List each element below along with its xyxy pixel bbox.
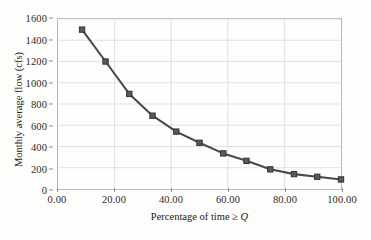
y-axis-tick-mark [49, 39, 53, 40]
y-axis-title: Monthly average flow (cfs) [13, 30, 24, 190]
x-axis-title-variable: Q [241, 211, 249, 222]
y-axis-tick-label: 800 [31, 99, 47, 110]
data-point-marker [127, 91, 132, 96]
data-series-layer [58, 19, 341, 189]
x-axis-tick-label: 20.00 [102, 194, 126, 205]
y-axis-tick-label: 0 [42, 185, 47, 196]
y-axis-tick-mark [49, 125, 53, 126]
x-axis-tick-label: 100.00 [327, 194, 356, 205]
data-point-marker [268, 167, 273, 172]
y-axis-tick-label: 1000 [26, 77, 47, 88]
x-axis-tick-mark [57, 188, 58, 192]
y-axis-tick-label: 1600 [26, 13, 47, 24]
y-axis-tick-mark [49, 147, 53, 148]
data-point-marker [79, 27, 84, 32]
y-axis-tick-mark [49, 82, 53, 83]
data-point-marker [315, 174, 320, 179]
data-point-marker [221, 151, 226, 156]
x-axis-tick-label: 80.00 [273, 194, 297, 205]
data-point-marker [291, 171, 296, 176]
data-point-marker [197, 140, 202, 145]
x-axis-title: Percentage of time ≥ Q [57, 211, 342, 222]
y-axis-tick-label: 1400 [26, 34, 47, 45]
y-axis-tick-mark [49, 168, 53, 169]
x-axis-tick-mark [285, 188, 286, 192]
y-axis-tick-labels: 02004006008001000120014001600 [0, 18, 53, 190]
y-axis-tick-label: 400 [31, 142, 47, 153]
data-point-marker [150, 113, 155, 118]
x-axis-tick-mark [342, 188, 343, 192]
x-axis-tick-label: 0.00 [48, 194, 67, 205]
y-axis-tick-label: 600 [31, 120, 47, 131]
x-axis-tick-mark [114, 188, 115, 192]
y-axis-tick-mark [49, 104, 53, 105]
data-point-marker [338, 177, 343, 182]
x-axis-tick-labels: 0.0020.0040.0060.0080.00100.00 [57, 192, 342, 208]
x-axis-tick-mark [228, 188, 229, 192]
y-axis-tick-mark [49, 18, 53, 19]
x-axis-tick-label: 60.00 [216, 194, 240, 205]
y-axis-tick-mark [49, 190, 53, 191]
flow-duration-chart: 02004006008001000120014001600 Monthly av… [0, 0, 371, 240]
plot-area [57, 18, 342, 190]
x-axis-tick-label: 40.00 [159, 194, 183, 205]
x-axis-title-text: Percentage of time ≥ [151, 211, 241, 222]
y-axis-tick-label: 200 [31, 163, 47, 174]
y-axis-tick-label: 1200 [26, 56, 47, 67]
data-point-marker [174, 129, 179, 134]
data-point-marker [103, 59, 108, 64]
data-line [82, 30, 341, 180]
x-axis-tick-mark [171, 188, 172, 192]
y-axis-tick-mark [49, 61, 53, 62]
data-point-marker [244, 158, 249, 163]
